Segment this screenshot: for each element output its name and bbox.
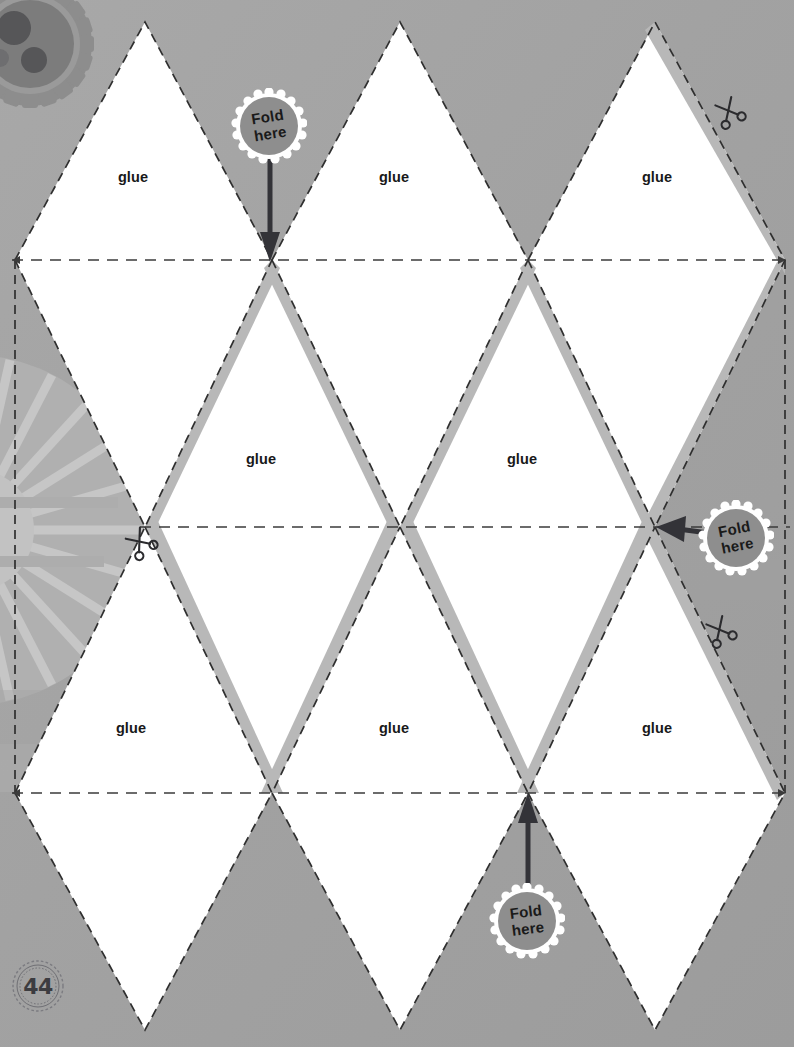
glue-label: glue (116, 720, 146, 736)
glue-label: glue (246, 451, 276, 467)
page-number: 44 (23, 974, 53, 999)
glue-label: glue (642, 169, 672, 185)
scissors-markers (0, 0, 794, 1047)
glue-label: glue (118, 169, 148, 185)
fold-here-badge-bottom: Fold here (489, 883, 565, 959)
glue-label: glue (379, 169, 409, 185)
fold-badge-line2: here (511, 918, 545, 939)
cutout-template-page: .cut { stroke:#2f2f2f; stroke-width:1.7;… (0, 0, 794, 1047)
scissors-mid-left-icon (123, 525, 160, 562)
glue-label: glue (642, 720, 672, 736)
glue-label: glue (507, 451, 537, 467)
scissors-top-right-icon (712, 95, 747, 130)
fold-here-badge-right: Fold here (698, 500, 774, 576)
scissors-mid-right-icon (703, 614, 738, 649)
page-number-stamp: 44 (10, 958, 66, 1014)
fold-here-badge-top: Fold here (231, 88, 307, 164)
glue-label: glue (379, 720, 409, 736)
